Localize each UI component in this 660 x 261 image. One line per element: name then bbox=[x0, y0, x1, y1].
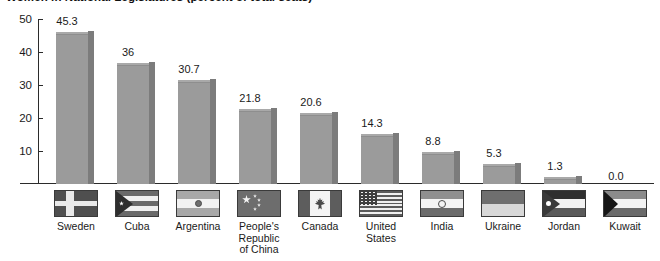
y-tick-label-30: 30 bbox=[2, 80, 32, 92]
bar-value-argentina: 30.7 bbox=[161, 64, 217, 75]
y-tick-20 bbox=[38, 118, 43, 119]
bar-slot-argentina: 30.7 bbox=[170, 15, 226, 184]
flag-cuba-icon bbox=[115, 190, 159, 217]
flag-united-states-icon bbox=[359, 190, 403, 217]
country-label-line: India bbox=[413, 221, 471, 233]
country-label-kuwait: Kuwait bbox=[596, 221, 654, 233]
country-label-line: Canada bbox=[291, 221, 349, 233]
country-label-line: Argentina bbox=[169, 221, 227, 233]
y-tick-label-20: 20 bbox=[2, 113, 32, 125]
bar-slot-ukraine: 5.3 bbox=[475, 15, 531, 184]
bar-side-cuba bbox=[149, 62, 155, 184]
legend-cell-argentina: Argentina bbox=[169, 190, 227, 233]
country-label-line: Jordan bbox=[535, 221, 593, 233]
country-label-line: Ukraine bbox=[474, 221, 532, 233]
legend-cell-united-states: United States bbox=[352, 190, 410, 244]
flag-canada-icon bbox=[298, 190, 342, 217]
country-label-line: Cuba bbox=[108, 221, 166, 233]
bar-side-united-states bbox=[393, 133, 399, 184]
y-tick-30 bbox=[38, 85, 43, 86]
bar-jordan[interactable] bbox=[544, 176, 582, 184]
flag-china-icon bbox=[237, 190, 281, 217]
country-label-line: Kuwait bbox=[596, 221, 654, 233]
flag-argentina-icon bbox=[176, 190, 220, 217]
bar-chart: Women in National Legislatures (percent … bbox=[0, 0, 660, 261]
y-tick-40 bbox=[38, 52, 43, 53]
bar-value-jordan: 1.3 bbox=[527, 161, 583, 172]
flag-ukraine-icon bbox=[481, 190, 525, 217]
bar-face-india bbox=[422, 154, 454, 184]
bar-side-sweden bbox=[88, 31, 94, 184]
bar-cuba[interactable] bbox=[117, 62, 155, 184]
bar-side-ukraine bbox=[515, 163, 521, 184]
bar-side-jordan bbox=[576, 176, 582, 184]
bar-slot-jordan: 1.3 bbox=[536, 15, 592, 184]
bar-slot-india: 8.8 bbox=[414, 15, 470, 184]
country-label-sweden: Sweden bbox=[47, 221, 105, 233]
legend-cell-kuwait: Kuwait bbox=[596, 190, 654, 233]
country-label-line: of China bbox=[230, 244, 288, 256]
bar-face-sweden bbox=[56, 34, 88, 184]
bar-slot-united-states: 14.3 bbox=[353, 15, 409, 184]
y-tick-10 bbox=[38, 151, 43, 152]
bar-face-jordan bbox=[544, 179, 576, 184]
bar-value-india: 8.8 bbox=[405, 136, 461, 147]
legend-cell-jordan: Jordan bbox=[535, 190, 593, 233]
bar-face-argentina bbox=[178, 82, 210, 184]
bar-china[interactable] bbox=[239, 108, 277, 184]
legend-cell-china: People's Republic of China bbox=[230, 190, 288, 256]
bar-side-argentina bbox=[210, 79, 216, 184]
bar-india[interactable] bbox=[422, 151, 460, 184]
bar-slot-cuba: 36 bbox=[109, 15, 165, 184]
bar-side-canada bbox=[332, 112, 338, 184]
country-label-line: People's bbox=[230, 221, 288, 233]
bar-slot-kuwait: 0.0 bbox=[597, 15, 653, 184]
bar-slot-china: 21.8 bbox=[231, 15, 287, 184]
bar-value-cuba: 36 bbox=[100, 47, 156, 58]
bar-side-china bbox=[271, 108, 277, 184]
y-tick-label-10: 10 bbox=[2, 146, 32, 158]
plot-area: 50 40 30 20 10 45.3 36 bbox=[38, 14, 654, 184]
country-label-ukraine: Ukraine bbox=[474, 221, 532, 233]
bar-value-canada: 20.6 bbox=[283, 97, 339, 108]
bar-ukraine[interactable] bbox=[483, 163, 521, 184]
bar-united-states[interactable] bbox=[361, 133, 399, 184]
bar-sweden[interactable] bbox=[56, 31, 94, 184]
country-legend-row: Sweden Cuba Argentina bbox=[38, 190, 654, 261]
flag-jordan-icon bbox=[542, 190, 586, 217]
country-label-china: People's Republic of China bbox=[230, 221, 288, 256]
legend-cell-cuba: Cuba bbox=[108, 190, 166, 233]
bar-face-united-states bbox=[361, 136, 393, 184]
legend-cell-canada: Canada bbox=[291, 190, 349, 233]
country-label-cuba: Cuba bbox=[108, 221, 166, 233]
country-label-line: United bbox=[352, 221, 410, 233]
legend-cell-ukraine: Ukraine bbox=[474, 190, 532, 233]
bar-value-kuwait: 0.0 bbox=[588, 171, 644, 182]
flag-kuwait-icon bbox=[603, 190, 647, 217]
bar-face-canada bbox=[300, 115, 332, 184]
y-tick-label-40: 40 bbox=[2, 47, 32, 59]
bar-value-china: 21.8 bbox=[222, 93, 278, 104]
country-label-line: States bbox=[352, 233, 410, 245]
country-label-canada: Canada bbox=[291, 221, 349, 233]
bar-face-china bbox=[239, 111, 271, 184]
country-label-united-states: United States bbox=[352, 221, 410, 244]
legend-cell-india: India bbox=[413, 190, 471, 233]
bar-face-ukraine bbox=[483, 166, 515, 184]
chart-title: Women in National Legislatures (percent … bbox=[6, 0, 426, 5]
bar-argentina[interactable] bbox=[178, 79, 216, 184]
bar-slot-sweden: 45.3 bbox=[48, 15, 104, 184]
flag-india-icon bbox=[420, 190, 464, 217]
bar-side-india bbox=[454, 151, 460, 184]
country-label-argentina: Argentina bbox=[169, 221, 227, 233]
bar-canada[interactable] bbox=[300, 112, 338, 184]
legend-cell-sweden: Sweden bbox=[47, 190, 105, 233]
bar-face-cuba bbox=[117, 65, 149, 184]
y-tick-label-50: 50 bbox=[2, 14, 32, 26]
flag-sweden-icon bbox=[54, 190, 98, 217]
country-label-jordan: Jordan bbox=[535, 221, 593, 233]
y-axis-line bbox=[38, 19, 39, 184]
bar-value-sweden: 45.3 bbox=[39, 16, 95, 27]
country-label-india: India bbox=[413, 221, 471, 233]
bar-value-united-states: 14.3 bbox=[344, 118, 400, 129]
